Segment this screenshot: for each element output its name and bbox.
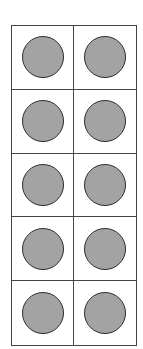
frame-cell <box>12 281 74 345</box>
counter-circle-icon <box>84 36 126 78</box>
counter-circle-icon <box>22 100 64 142</box>
counter-circle-icon <box>22 228 64 270</box>
counter-circle-icon <box>22 292 64 334</box>
counter-circle-icon <box>22 164 64 206</box>
frame-cell <box>74 281 136 345</box>
counter-circle-icon <box>22 36 64 78</box>
frame-cell <box>74 217 136 281</box>
counter-circle-icon <box>84 292 126 334</box>
counter-circle-icon <box>84 100 126 142</box>
ten-frame-grid <box>11 25 137 346</box>
frame-cell <box>12 154 74 218</box>
frame-cell <box>74 154 136 218</box>
frame-cell <box>12 90 74 154</box>
frame-cell <box>74 26 136 90</box>
frame-cell <box>12 26 74 90</box>
frame-cell <box>74 90 136 154</box>
counter-circle-icon <box>84 228 126 270</box>
frame-cell <box>12 217 74 281</box>
counter-circle-icon <box>84 164 126 206</box>
